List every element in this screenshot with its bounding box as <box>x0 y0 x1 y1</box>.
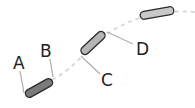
segment-dark <box>24 77 54 99</box>
label-a: A <box>13 53 25 73</box>
label-c: C <box>101 70 113 90</box>
label-b: B <box>40 41 52 61</box>
leader-line-b <box>50 59 53 77</box>
leader-line-c <box>81 56 100 74</box>
leader-line-a <box>20 71 24 93</box>
label-d: D <box>136 39 149 59</box>
segment-light <box>140 6 175 20</box>
dashed-trajectory <box>52 11 195 80</box>
segment-mid <box>79 30 106 56</box>
diagram-canvas: A B C D <box>0 0 195 108</box>
leader-line-d <box>107 32 133 44</box>
